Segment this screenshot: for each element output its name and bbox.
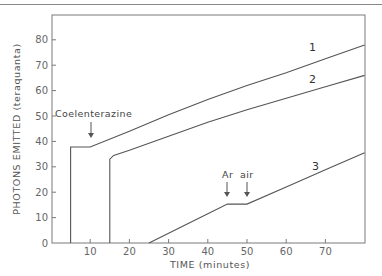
series-line-3 <box>149 153 365 243</box>
x-tick-label: 40 <box>201 246 214 257</box>
y-axis-ticks: 01020304050607080 <box>35 34 56 248</box>
series-label-3: 3 <box>312 160 319 173</box>
x-tick-label: 70 <box>319 246 332 257</box>
y-tick-label: 70 <box>35 60 48 71</box>
y-tick-label: 30 <box>35 161 48 172</box>
x-axis-ticks: 10203040506070 <box>84 239 332 257</box>
series-line-1 <box>71 45 365 243</box>
coelenterazine-arrowhead-icon <box>88 133 94 138</box>
x-tick-label: 30 <box>162 246 175 257</box>
y-tick-label: 0 <box>42 238 48 249</box>
x-axis-title: TIME (minutes) <box>169 259 250 270</box>
annotation-coelenterazine: Coelenterazine <box>55 108 132 119</box>
series-line-2 <box>110 75 365 243</box>
y-tick-label: 60 <box>35 85 48 96</box>
x-tick-label: 10 <box>84 246 97 257</box>
y-tick-label: 10 <box>35 212 48 223</box>
series-lines <box>71 45 365 243</box>
y-tick-label: 40 <box>35 136 48 147</box>
plot-frame <box>52 15 365 243</box>
x-tick-label: 60 <box>280 246 293 257</box>
air-arrowhead-icon <box>244 192 250 197</box>
y-tick-label: 80 <box>35 34 48 45</box>
y-tick-label: 50 <box>35 111 48 122</box>
y-axis-title: PHOTONS EMITTED (teraquanta) <box>11 43 22 215</box>
photon-emission-chart: 01020304050607080 10203040506070 PHOTONS… <box>0 0 382 276</box>
x-tick-label: 50 <box>241 246 254 257</box>
annotation-air: air <box>240 169 254 180</box>
series-label-2: 2 <box>309 73 316 86</box>
annotation-ar: Ar <box>222 169 233 180</box>
series-label-1: 1 <box>309 41 316 54</box>
y-tick-label: 20 <box>35 187 48 198</box>
ar-arrowhead-icon <box>224 192 230 197</box>
x-tick-label: 20 <box>123 246 136 257</box>
